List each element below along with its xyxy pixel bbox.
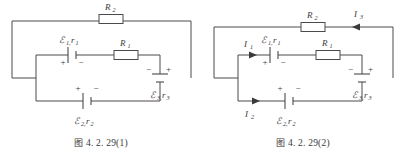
battery-e2-r: r	[86, 116, 90, 126]
battery-e3-label: ℰ	[150, 90, 157, 100]
battery-e1-minus-sign: −	[281, 57, 286, 67]
outer-loop-wire	[12, 21, 191, 78]
resistor-r1-body	[316, 51, 340, 60]
battery-e1-plus-sign: +	[61, 57, 66, 67]
battery-e2-r: r	[288, 116, 292, 126]
resistor-r2-sub: 2	[315, 14, 318, 21]
battery-e2-minus-sign: −	[296, 83, 301, 93]
figure-1-caption-prefix: 图	[74, 138, 83, 148]
battery-e3-r3: − + ℰ 3, r 3	[348, 64, 373, 101]
battery-e3-minus-sign: −	[146, 64, 151, 74]
resistor-r2-label: R	[104, 2, 111, 12]
battery-e2-label: ℰ	[74, 116, 81, 126]
resistor-r1-sub: 1	[330, 42, 333, 49]
figure-2-caption: 图 4. 2. 29(2)	[202, 136, 404, 149]
circuit-diagram-1: R 2 R 1 + − ℰ 1, r 1 +	[0, 0, 202, 140]
battery-e3-r: r	[162, 90, 166, 100]
battery-e1-label: ℰ	[261, 35, 268, 45]
battery-e2-plus-sign: +	[76, 83, 81, 93]
battery-e2-rsub: 2	[91, 120, 94, 127]
resistor-r2-body	[301, 23, 325, 32]
battery-e1-r: r	[273, 35, 277, 45]
battery-e3-r3: − + ℰ 3, r 3	[146, 64, 171, 101]
resistor-r1-body	[114, 51, 138, 60]
resistor-r2-label: R	[306, 10, 313, 20]
current-i3-label: I	[353, 9, 358, 19]
battery-e3-minus-sign: −	[348, 64, 353, 74]
figure-1-caption-number: 4. 2. 29(1)	[86, 138, 128, 148]
figure-1-caption: 图 4. 2. 29(1)	[0, 136, 202, 149]
battery-e1-rsub: 1	[76, 39, 79, 46]
current-i2-label: I	[244, 109, 249, 119]
circuit-figure-2: R 2 I 3 R 1 I 1 I 2	[202, 0, 404, 155]
battery-e1-rsub: 1	[278, 39, 281, 46]
battery-e2-r2: + − ℰ 2, r 2	[276, 83, 301, 127]
battery-e3-rsub: 3	[166, 94, 170, 101]
battery-e2-r2: + − ℰ 2, r 2	[74, 83, 99, 127]
resistor-r1-label: R	[321, 38, 328, 48]
battery-e2-rsub: 2	[293, 120, 296, 127]
circuit-figure-1: R 2 R 1 + − ℰ 1, r 1 +	[0, 0, 202, 155]
battery-e3-label: ℰ	[352, 90, 359, 100]
current-i2-sub: 2	[251, 113, 254, 120]
battery-e3-rsub: 3	[368, 94, 372, 101]
resistor-r2-body	[99, 15, 123, 24]
figure-2-caption-number: 4. 2. 29(2)	[288, 138, 330, 148]
battery-e2-plus-sign: +	[278, 83, 283, 93]
battery-e3-plus-sign: +	[166, 64, 171, 74]
inner-loop-wire	[36, 55, 160, 101]
battery-e1-minus-sign: −	[79, 57, 84, 67]
resistor-r2-sub: 2	[113, 6, 116, 13]
outer-loop-wire	[214, 27, 393, 78]
current-i3-sub: 3	[359, 13, 363, 20]
resistor-r1-label: R	[119, 38, 126, 48]
current-i1-sub: 1	[250, 43, 253, 50]
battery-e3-plus-sign: +	[368, 64, 373, 74]
battery-e1-label: ℰ	[59, 35, 66, 45]
battery-e1-plus-sign: +	[263, 57, 268, 67]
current-i1-label: I	[243, 39, 248, 49]
resistor-r1-sub: 1	[128, 42, 131, 49]
figure-pair-container: R 2 R 1 + − ℰ 1, r 1 +	[0, 0, 404, 155]
inner-loop-wire	[238, 55, 362, 101]
battery-e2-label: ℰ	[276, 116, 283, 126]
battery-e1-r1: + − ℰ 1, r 1	[59, 35, 84, 67]
battery-e1-r1: + − ℰ 1, r 1	[261, 35, 286, 67]
battery-e3-r: r	[364, 90, 368, 100]
battery-e1-r: r	[71, 35, 75, 45]
circuit-diagram-2: R 2 I 3 R 1 I 1 I 2	[202, 0, 404, 140]
figure-2-caption-prefix: 图	[276, 138, 285, 148]
battery-e2-minus-sign: −	[94, 83, 99, 93]
